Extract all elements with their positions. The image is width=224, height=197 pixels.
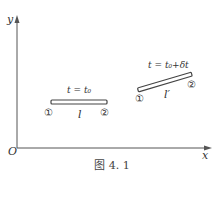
rod-later-length-label: l′: [164, 89, 170, 100]
rod-initial: [51, 100, 107, 104]
rod-initial-end2-label: ②: [100, 108, 109, 118]
y-axis-arrow-icon: [15, 15, 20, 23]
rod-later-time-label: t = t₀+δt: [148, 61, 189, 70]
rod-later-end2-label: ②: [187, 80, 196, 90]
rod-initial-time-label: t = t₀: [67, 86, 91, 95]
figure-caption: 图 4. 1: [0, 156, 224, 172]
rod-later-end1-label: ①: [135, 94, 144, 104]
y-axis-label: y: [7, 14, 13, 25]
rod-initial-length-label: l: [78, 109, 82, 120]
rod-initial-end1-label: ①: [44, 108, 53, 118]
